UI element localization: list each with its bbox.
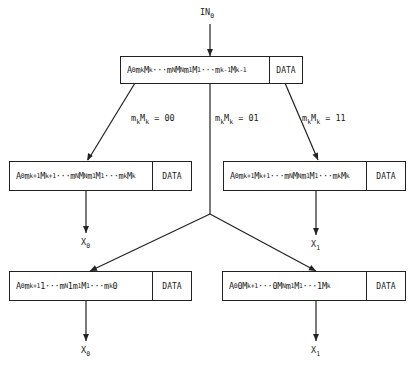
formula-mid-left: A0mk+1Mk+1···mNMNm1M1···mkMk bbox=[10, 162, 153, 190]
formula-bottom-right: A00Mk+1···0MNm1M1···1Mk bbox=[223, 272, 367, 300]
output-label-mid-right: X1 bbox=[311, 239, 320, 252]
split-right-line bbox=[210, 214, 316, 271]
output-label-bottom-right: X1 bbox=[311, 345, 320, 358]
data-cell-bottom-left: DATA bbox=[153, 272, 191, 300]
formula-mid-right: A0mk+1Mk+1···mNMNm1M1···mkMk bbox=[224, 162, 367, 190]
formula-bottom-left: A0mk+11···mN1m1M1···mk0 bbox=[10, 272, 153, 300]
data-cell-top: DATA bbox=[270, 57, 302, 83]
data-cell-mid-right: DATA bbox=[367, 162, 405, 190]
branch-label-left: mkMk = 00 bbox=[131, 113, 175, 126]
input-label: IN0 bbox=[200, 7, 214, 20]
box-mid-left: A0mk+1Mk+1···mNMNm1M1···mkMk DATA bbox=[9, 161, 192, 191]
formula-top: A0mkMk···mNMNm1M1···mk-1Mk-1 bbox=[121, 57, 270, 83]
box-bottom-right: A00Mk+1···0MNm1M1···1Mk DATA bbox=[222, 271, 406, 301]
branch-label-center: mkMk = 01 bbox=[215, 113, 259, 126]
output-label-mid-left: X0 bbox=[81, 237, 90, 250]
data-cell-bottom-right: DATA bbox=[367, 272, 405, 300]
split-left-line bbox=[90, 214, 210, 271]
branch-left-line bbox=[88, 83, 135, 160]
box-mid-right: A0mk+1Mk+1···mNMNm1M1···mkMk DATA bbox=[223, 161, 406, 191]
data-cell-mid-left: DATA bbox=[153, 162, 191, 190]
box-bottom-left: A0mk+11···mN1m1M1···mk0 DATA bbox=[9, 271, 192, 301]
output-label-bottom-left: X0 bbox=[81, 345, 90, 358]
branch-label-right: mkMk = 11 bbox=[302, 113, 346, 126]
box-top: A0mkMk···mNMNm1M1···mk-1Mk-1 DATA bbox=[120, 56, 303, 84]
